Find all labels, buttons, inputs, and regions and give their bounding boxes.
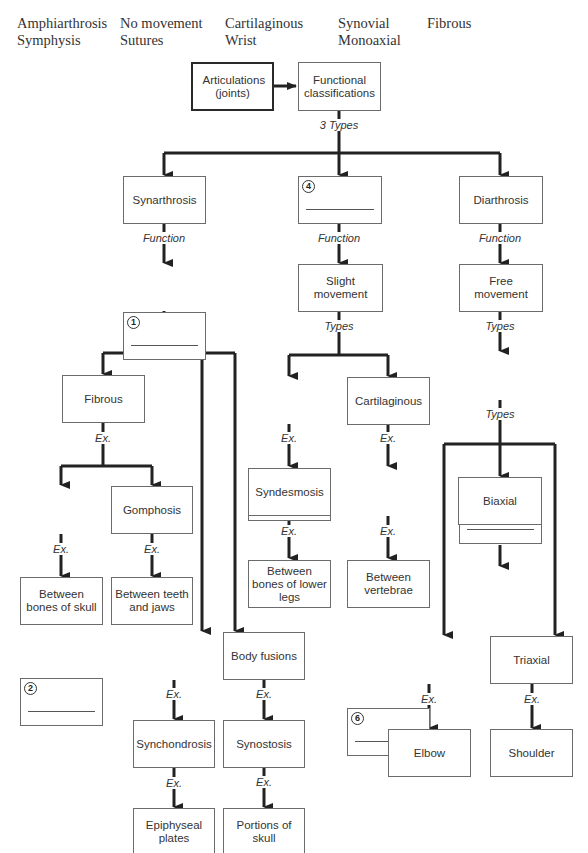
label-ex: Ex. <box>379 525 397 537</box>
label-ex: Ex. <box>52 543 70 555</box>
box-between-bones-of-lower-legs: Between bones of lower legs <box>248 560 331 608</box>
box-between-bones-of-skull: Between bones of skull <box>20 577 103 625</box>
number-badge: 1 <box>127 316 140 329</box>
label-ex: Ex. <box>255 688 273 700</box>
label-ex: Ex. <box>94 432 112 444</box>
label-ex: Ex. <box>143 543 161 555</box>
box-synarthrosis: Synarthrosis <box>123 176 206 224</box>
label-ex: Ex. <box>255 776 273 788</box>
box-epiphyseal-plates: Epiphyseal plates <box>133 808 215 853</box>
box-syndesmosis: Syndesmosis <box>248 468 331 516</box>
label-types: Types <box>484 408 515 420</box>
box-between-vertebrae: Between vertebrae <box>347 560 430 608</box>
label-types: Types <box>323 320 354 332</box>
label-function: Function <box>317 232 361 244</box>
answer-line[interactable] <box>467 529 534 530</box>
label-ex: Ex. <box>523 693 541 705</box>
box-gomphosis: Gomphosis <box>111 486 193 534</box>
blank-box-4[interactable]: 4 <box>298 176 382 224</box>
label-ex: Ex. <box>165 688 183 700</box>
box-synostosis: Synostosis <box>223 720 305 768</box>
box-shoulder: Shoulder <box>490 729 573 777</box>
label-ex: Ex. <box>280 525 298 537</box>
box-between-teeth-and-jaws: Between teeth and jaws <box>111 577 193 625</box>
box-articulations: Articulations (joints) <box>191 62 274 111</box>
box-portions-of-skull: Portions of skull <box>223 808 305 853</box>
answer-line[interactable] <box>306 209 374 210</box>
box-free-movement: Free movement <box>459 264 543 312</box>
number-badge: 6 <box>351 712 364 725</box>
box-synchondrosis: Synchondrosis <box>133 720 215 768</box>
label-function: Function <box>478 232 522 244</box>
box-slight-movement: Slight movement <box>298 264 383 312</box>
label-3-types: 3 Types <box>319 119 359 131</box>
number-badge: 2 <box>24 682 37 695</box>
label-ex: Ex. <box>280 432 298 444</box>
label-types: Types <box>484 320 515 332</box>
blank-box-1[interactable]: 1 <box>123 312 206 360</box>
box-diarthrosis: Diarthrosis <box>459 176 543 224</box>
label-ex: Ex. <box>165 777 183 789</box>
answer-line[interactable] <box>28 711 95 712</box>
number-badge: 4 <box>302 180 315 193</box>
box-biaxial: Biaxial <box>458 477 542 525</box>
box-fibrous: Fibrous <box>62 375 145 423</box>
label-function: Function <box>142 232 186 244</box>
answer-line[interactable] <box>131 345 198 346</box>
box-triaxial: Triaxial <box>490 636 573 684</box>
box-functional-classifications: Functional classifications <box>298 62 381 111</box>
box-elbow: Elbow <box>388 729 471 777</box>
label-ex: Ex. <box>420 693 438 705</box>
box-cartilaginous: Cartilaginous <box>347 377 430 425</box>
box-body-fusions: Body fusions <box>223 632 305 680</box>
label-ex: Ex. <box>379 432 397 444</box>
blank-box-2[interactable]: 2 <box>20 678 103 726</box>
